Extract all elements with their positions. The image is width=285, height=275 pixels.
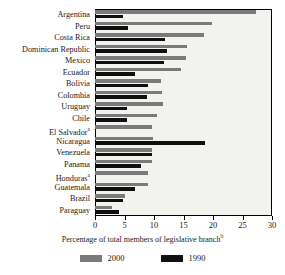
bar-1990 [95,164,141,168]
category-label: Hondurasa [0,170,93,182]
x-tick-label: 5 [122,220,126,230]
category-label: Bolivia [0,78,93,90]
x-tick-label: 0 [93,220,97,230]
x-tick-label: 25 [238,220,247,230]
bar-group [95,55,272,67]
bar-2000 [95,10,256,14]
category-label: El Salvadora [0,124,93,136]
bar-group [95,170,272,182]
bar-group [95,159,272,171]
category-label: Venezuela [0,147,93,159]
bar-2000 [95,206,112,210]
category-label: Brazil [0,193,93,205]
bar-2000 [95,125,152,129]
bar-2000 [95,22,212,26]
bar-group [95,124,272,136]
bar-1990 [95,26,128,30]
bar-2000 [95,79,161,83]
bar-group [95,90,272,102]
bar-1990 [95,187,135,191]
bar-2000 [95,160,152,164]
legend-label-2000: 2000 [108,253,125,263]
bar-2000 [95,91,162,95]
x-tick-label: 30 [268,220,277,230]
category-label: Colombia [0,90,93,102]
x-axis-title-text: Percentage of total members of legislati… [62,235,221,244]
bar-group [95,193,272,205]
category-label-superscript: a [88,172,90,178]
bar-1990 [95,49,167,53]
bar-1990 [95,38,165,42]
bar-1990 [95,210,119,214]
bar-group [95,32,272,44]
bar-1990 [95,72,135,76]
bar-1990 [95,118,127,122]
bar-group [95,182,272,194]
bar-2000 [95,194,125,198]
bar-1990 [95,199,123,203]
bar-2000 [95,183,148,187]
category-label: Costa Rica [0,32,93,44]
bar-chart: ArgentinaPeruCosta RicaDominican Republi… [0,0,285,275]
category-label: Argentina [0,9,93,21]
legend-label-1990: 1990 [189,253,206,263]
legend-item-1990: 1990 [161,253,206,263]
category-label: Paraguay [0,205,93,217]
bar-group [95,136,272,148]
bar-group [95,113,272,125]
category-label: Nicaragua [0,136,93,148]
legend-swatch-2000 [80,255,102,262]
bar-2000 [95,102,163,106]
category-label: Panama [0,159,93,171]
category-label: Ecuador [0,67,93,79]
x-tick-label: 20 [209,220,218,230]
x-axis-title: Percentage of total members of legislati… [0,233,285,244]
category-label: Chile [0,113,93,125]
bar-2000 [95,45,187,49]
bar-2000 [95,56,186,60]
category-label-superscript: a [88,126,90,132]
bar-2000 [95,148,152,152]
category-label: Guatemala [0,182,93,194]
x-axis-tick-labels: 051015202530 [95,220,272,232]
bar-2000 [95,33,204,37]
x-tick-label: 10 [150,220,159,230]
bar-2000 [95,114,157,118]
bar-group [95,9,272,21]
bars-container [95,9,272,216]
bar-1990 [95,84,148,88]
category-label: Mexico [0,55,93,67]
legend-swatch-1990 [161,255,183,262]
bar-1990 [95,153,152,157]
category-label: Dominican Republic [0,44,93,56]
bar-1990 [95,15,123,19]
legend: 2000 1990 [0,253,285,263]
bar-2000 [95,171,148,175]
category-label: Uruguay [0,101,93,113]
bar-1990 [95,107,127,111]
bar-1990 [95,141,205,145]
bar-group [95,67,272,79]
bar-2000 [95,68,181,72]
legend-item-2000: 2000 [80,253,125,263]
bar-group [95,205,272,217]
bar-group [95,44,272,56]
x-tick-label: 15 [179,220,188,230]
bar-group [95,101,272,113]
bar-1990 [95,61,164,65]
bar-1990 [95,95,147,99]
x-axis-title-superscript: b [220,233,223,239]
category-axis-labels: ArgentinaPeruCosta RicaDominican Republi… [0,9,93,216]
bar-group [95,21,272,33]
bar-group [95,78,272,90]
bar-group [95,147,272,159]
category-label: Peru [0,21,93,33]
bar-2000 [95,137,153,141]
